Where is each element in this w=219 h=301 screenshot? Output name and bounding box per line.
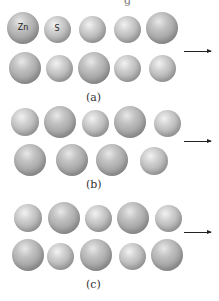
- arrow-right-icon: [184, 141, 211, 142]
- arrow-right-icon: [184, 232, 211, 233]
- zn-atom-sphere: [80, 239, 112, 271]
- zn-atom-sphere: [146, 12, 178, 44]
- s-atom-sphere: [114, 16, 141, 43]
- s-atom-sphere: [79, 16, 106, 43]
- atom-label: S: [44, 24, 71, 33]
- s-atom-sphere: [155, 205, 182, 232]
- zn-atom-sphere: [44, 106, 76, 138]
- panel-label: (c): [86, 278, 101, 291]
- zn-atom-sphere: Zn: [7, 12, 39, 44]
- panel-label: (a): [86, 91, 101, 104]
- s-atom-sphere: [140, 147, 168, 175]
- s-atom-sphere: [154, 110, 181, 137]
- s-atom-sphere: [85, 205, 112, 232]
- s-atom-sphere: [119, 243, 146, 270]
- zn-atom-sphere: [114, 106, 146, 138]
- zn-atom-sphere: [56, 144, 88, 176]
- s-atom-sphere: S: [44, 16, 71, 43]
- s-atom-sphere: [82, 110, 109, 137]
- zn-atom-sphere: [9, 52, 41, 84]
- s-atom-sphere: [47, 243, 74, 270]
- zn-atom-sphere: [78, 52, 110, 84]
- zn-atom-sphere: [12, 239, 44, 271]
- zn-atom-sphere: [48, 202, 80, 234]
- zn-atom-sphere: [151, 239, 183, 271]
- zn-atom-sphere: [117, 202, 149, 234]
- s-atom-sphere: [149, 55, 176, 82]
- cropped-text-fragment: g: [124, 0, 131, 7]
- arrow-right-icon: [184, 51, 211, 52]
- zn-atom-sphere: [96, 144, 128, 176]
- s-atom-sphere: [11, 108, 39, 136]
- panel-label: (b): [86, 178, 102, 191]
- atom-label: Zn: [7, 23, 39, 32]
- s-atom-sphere: [14, 204, 42, 232]
- s-atom-sphere: [114, 55, 141, 82]
- s-atom-sphere: [46, 55, 73, 82]
- zn-atom-sphere: [14, 144, 46, 176]
